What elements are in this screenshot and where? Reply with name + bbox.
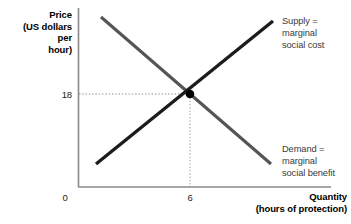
y-tick-label-18: 18 [40,89,72,101]
supply-demand-chart: Price (US dollars per hour) 18 0 6 Quant… [0,0,351,224]
supply-curve-label: Supply = marginal social cost [282,15,350,52]
demand-curve-label: Demand = marginal social benefit [282,143,350,180]
x-tick-label-6: 6 [181,192,199,204]
y-axis-title: Price (US dollars per hour) [4,9,72,55]
equilibrium-point [186,90,195,99]
x-tick-label-0: 0 [56,192,74,204]
x-axis-title: Quantity (hours of protection) [200,191,347,214]
